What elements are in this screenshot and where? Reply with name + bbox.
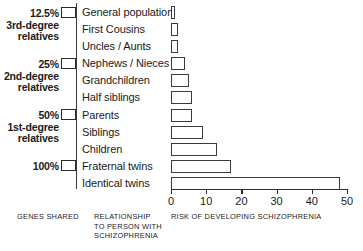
bar xyxy=(171,177,340,190)
x-axis: 01020304050 xyxy=(171,189,347,190)
bar xyxy=(171,57,185,70)
genes-degree-1: 2nd-degree relatives xyxy=(4,70,59,94)
genes-shared-column: 12.5%3rd-degree relatives 25%2nd-degree … xyxy=(0,0,76,195)
x-axis-tick-label: 30 xyxy=(270,195,282,207)
x-axis-tick-label: 40 xyxy=(306,195,318,207)
bar xyxy=(171,109,192,122)
bar xyxy=(171,143,217,156)
bar xyxy=(171,91,192,104)
chart-rows: General populationFirst CousinsUncles / … xyxy=(82,4,363,192)
genes-group-label-0: 12.5%3rd-degree relatives xyxy=(6,8,59,43)
row-label-parents: Parents xyxy=(82,107,119,124)
x-axis-tick xyxy=(347,189,348,194)
bar-track xyxy=(171,126,347,139)
column-divider xyxy=(76,3,77,189)
genes-group-label-1: 25%2nd-degree relatives xyxy=(4,59,59,94)
x-axis-tick xyxy=(312,189,313,194)
schizophrenia-risk-figure: 12.5%3rd-degree relatives 25%2nd-degree … xyxy=(0,0,363,251)
chart-row: Uncles / Aunts xyxy=(82,38,363,55)
x-axis-tick xyxy=(171,189,172,194)
chart-row: Half siblings xyxy=(82,89,363,106)
row-label-fraternal-twins: Fraternal twins xyxy=(82,158,153,175)
bar xyxy=(171,126,203,139)
bar xyxy=(171,160,231,173)
genes-percent-3: 100% xyxy=(33,160,59,172)
bar xyxy=(171,74,189,87)
bar-track xyxy=(171,177,347,190)
caption-relationship: RELATIONSHIP TO PERSON WITH SCHIZOPHRENI… xyxy=(94,212,162,241)
row-label-children: Children xyxy=(82,141,122,158)
x-axis-tick-label: 10 xyxy=(200,195,212,207)
bar xyxy=(171,6,175,19)
genes-swatch-box-3 xyxy=(61,160,76,171)
bar-track xyxy=(171,143,347,156)
row-label-uncles-aunts: Uncles / Aunts xyxy=(82,38,151,55)
caption-risk: RISK OF DEVELOPING SCHIZOPHRENIA xyxy=(171,212,322,222)
bar-track xyxy=(171,23,347,36)
row-label-siblings: Siblings xyxy=(82,124,120,141)
genes-group-label-2: 50%1st-degree relatives xyxy=(7,110,59,145)
row-label-nephews-nieces: Nephews / Nieces xyxy=(82,55,169,72)
row-label-half-siblings: Half siblings xyxy=(82,89,140,106)
genes-swatch-box-1 xyxy=(61,58,76,69)
row-label-first-cousins: First Cousins xyxy=(82,21,145,38)
caption-genes-shared: GENES SHARED xyxy=(17,212,79,222)
genes-degree-0: 3rd-degree relatives xyxy=(6,19,59,43)
chart-row: Children xyxy=(82,141,363,158)
bar-track xyxy=(171,160,347,173)
chart-row: Parents xyxy=(82,107,363,124)
x-axis-tick-label: 50 xyxy=(341,195,353,207)
genes-group-label-3: 100% xyxy=(33,161,59,173)
bar-track xyxy=(171,6,347,19)
x-axis-tick xyxy=(241,189,242,194)
chart-row: First Cousins xyxy=(82,21,363,38)
bar-track xyxy=(171,40,347,53)
genes-degree-2: 1st-degree relatives xyxy=(7,121,59,145)
chart-row: Siblings xyxy=(82,124,363,141)
chart-row: Grandchildren xyxy=(82,72,363,89)
bar-track xyxy=(171,74,347,87)
x-axis-tick xyxy=(206,189,207,194)
chart-row: General population xyxy=(82,4,363,21)
row-label-grandchildren: Grandchildren xyxy=(82,72,150,89)
genes-percent-0: 12.5% xyxy=(30,7,59,19)
genes-percent-1: 25% xyxy=(38,58,59,70)
x-axis-tick-label: 20 xyxy=(235,195,247,207)
genes-swatch-box-0 xyxy=(61,7,76,18)
chart-row: Nephews / Nieces xyxy=(82,55,363,72)
x-axis-tick-label: 0 xyxy=(168,195,174,207)
row-label-identical-twins: Identical twins xyxy=(82,175,150,192)
bar-track xyxy=(171,109,347,122)
genes-percent-2: 50% xyxy=(38,109,59,121)
bar xyxy=(171,40,178,53)
bar xyxy=(171,23,178,36)
x-axis-tick xyxy=(277,189,278,194)
bar-track xyxy=(171,57,347,70)
bar-track xyxy=(171,91,347,104)
row-label-general-population: General population xyxy=(82,4,173,21)
genes-swatch-box-2 xyxy=(61,109,76,120)
chart-row: Fraternal twins xyxy=(82,158,363,175)
